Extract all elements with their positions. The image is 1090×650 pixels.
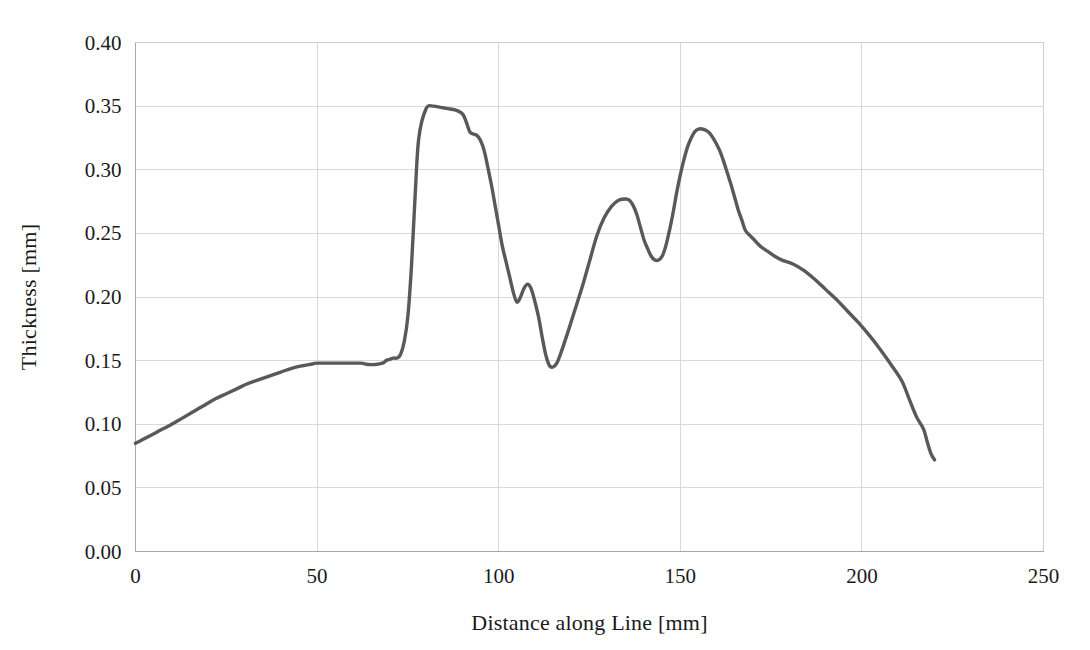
y-tick-label: 0.00 [85,540,122,564]
x-tick-label: 100 [483,564,515,588]
x-tick-label: 200 [846,564,878,588]
x-tick-label: 0 [130,564,141,588]
x-axis-title: Distance along Line [mm] [471,610,707,635]
y-tick-label: 0.30 [85,158,122,182]
y-tick-label: 0.25 [85,221,122,245]
y-tick-label: 0.05 [85,476,122,500]
x-tick-label: 150 [665,564,697,588]
y-tick-label: 0.10 [85,412,122,436]
chart-canvas: 0.000.050.100.150.200.250.300.350.40 050… [0,0,1090,650]
y-tick-label: 0.15 [85,349,122,373]
y-tick-label: 0.35 [85,94,122,118]
y-tick-label: 0.20 [85,285,122,309]
y-axis-tick-labels: 0.000.050.100.150.200.250.300.350.40 [85,31,122,564]
thickness-profile-chart: 0.000.050.100.150.200.250.300.350.40 050… [0,0,1090,650]
y-axis-title: Thickness [mm] [16,224,41,370]
y-tick-label: 0.40 [85,31,122,55]
x-tick-label: 50 [307,564,328,588]
x-tick-label: 250 [1028,564,1060,588]
